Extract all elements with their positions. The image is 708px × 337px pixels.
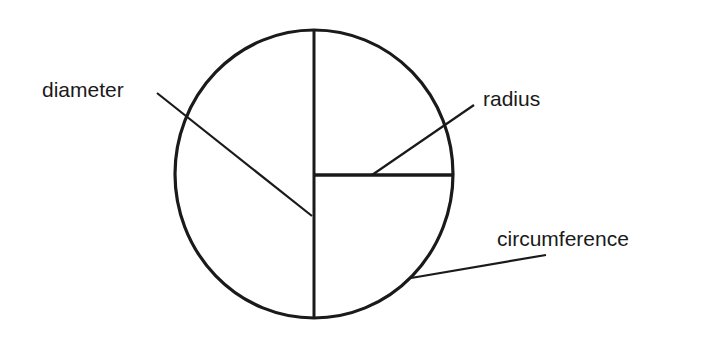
radius-leader: [372, 105, 474, 175]
circumference-leader: [411, 255, 546, 278]
circle-diagram: diameter radius circumference: [0, 0, 708, 337]
diameter-label: diameter: [42, 78, 124, 101]
circumference-label: circumference: [497, 227, 629, 250]
radius-label: radius: [483, 87, 540, 110]
diameter-leader: [157, 93, 312, 216]
